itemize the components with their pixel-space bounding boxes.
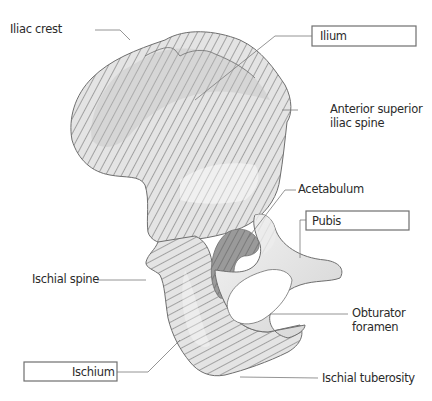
label-ilium: Ilium — [320, 29, 347, 43]
ilium-region — [71, 32, 291, 245]
label-iliac-crest: Iliac crest — [10, 22, 63, 36]
label-asis-line2: iliac spine — [330, 116, 384, 130]
leader-ischium — [117, 340, 180, 372]
label-ischium: Ischium — [72, 365, 115, 379]
leader-pubis — [300, 220, 306, 258]
hip-bone-diagram: Iliac crest Ilium Anterior superior ilia… — [0, 0, 432, 401]
label-acetabulum: Acetabulum — [298, 182, 364, 196]
label-asis-line1: Anterior superior — [330, 102, 423, 116]
label-obturator-line2: foramen — [352, 320, 398, 334]
label-ischial-tuberosity: Ischial tuberosity — [322, 371, 415, 385]
label-pubis: Pubis — [312, 214, 341, 228]
leader-ischial-tuberosity — [240, 377, 318, 378]
leader-iliac-crest — [95, 30, 130, 40]
label-ischial-spine: Ischial spine — [32, 272, 99, 286]
label-obturator-line1: Obturator — [352, 306, 406, 320]
